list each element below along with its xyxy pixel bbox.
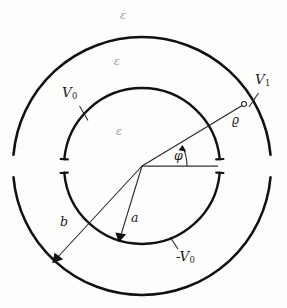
angle-phi-label: φ xyxy=(174,150,183,163)
inner-conductor-lower-arc xyxy=(64,173,219,244)
rho-ray-line xyxy=(142,105,243,166)
physics-figure: ε ε ε V1 V0 -V0 a b ϱ φ xyxy=(0,0,287,308)
epsilon-label-outside: ε xyxy=(120,10,126,21)
figure-canvas xyxy=(0,0,287,308)
epsilon-label-core: ε xyxy=(116,126,122,137)
inner-bottom-potential-symbol: -V xyxy=(176,248,189,264)
field-point-marker xyxy=(242,102,247,107)
inner-top-potential-symbol: V xyxy=(62,84,72,100)
radius-b-arrowhead xyxy=(52,253,63,263)
inner-conductor-upper-arc xyxy=(64,88,219,159)
radius-a-arrow-line xyxy=(121,166,143,237)
inner-top-conductor-potential-label: V0 xyxy=(62,86,77,101)
outer-conductor-lower-arc xyxy=(13,177,270,295)
outer-conductor-potential-label: V1 xyxy=(255,73,270,88)
inner-top-potential-subscript: 0 xyxy=(72,91,77,101)
outer-radius-label: b xyxy=(60,216,68,229)
outer-potential-symbol: V xyxy=(255,71,265,87)
outer-potential-subscript: 1 xyxy=(265,78,270,88)
inner-bottom-conductor-potential-label: -V0 xyxy=(176,250,195,265)
outer-conductor-upper-arc xyxy=(13,37,270,155)
inner-bottom-potential-subscript: 0 xyxy=(190,255,195,265)
radius-b-arrow-line xyxy=(57,166,143,259)
field-point-radius-label: ϱ xyxy=(232,114,239,126)
epsilon-label-annulus: ε xyxy=(114,56,120,67)
inner-radius-label: a xyxy=(131,212,138,225)
